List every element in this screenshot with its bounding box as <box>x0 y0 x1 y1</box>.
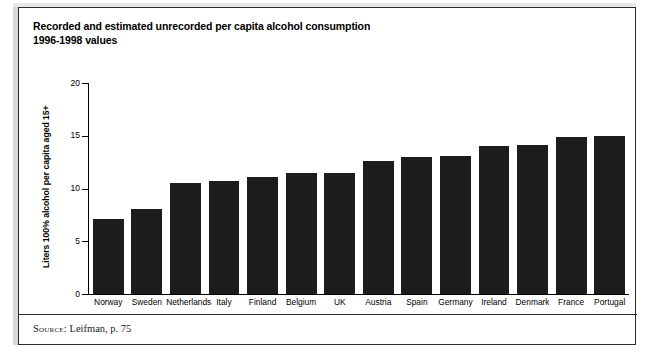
bar <box>440 156 471 294</box>
y-tick-label: 0 <box>54 290 80 299</box>
bar <box>363 161 394 294</box>
y-tick-mark <box>82 136 89 137</box>
x-axis-label: Norway <box>89 297 128 308</box>
x-axis-label: Spain <box>398 297 437 308</box>
source-citation: Leifman, p. 75 <box>70 323 132 334</box>
bar <box>247 177 278 294</box>
y-tick-label: 10 <box>54 184 80 193</box>
bar <box>286 173 317 294</box>
source-note: Source: Leifman, p. 75 <box>33 323 131 334</box>
bar <box>170 183 201 294</box>
y-tick-label-text: 20 <box>58 79 80 88</box>
y-tick-label: 5 <box>54 237 80 246</box>
bar <box>517 145 548 294</box>
y-tick-mark <box>82 294 89 295</box>
bar <box>209 181 240 294</box>
x-axis-label: Germany <box>436 297 475 308</box>
bar <box>479 146 510 294</box>
x-axis-label: Netherlands <box>166 297 205 308</box>
y-axis-title: Liters 100% alcohol per capita aged 15+ <box>41 108 51 268</box>
y-tick-mark <box>82 241 89 242</box>
x-axis-label: Portugal <box>590 297 629 308</box>
x-axis-label: Italy <box>205 297 244 308</box>
bar <box>324 173 355 294</box>
y-tick-mark <box>82 83 89 84</box>
y-tick-label: 20 <box>54 79 80 88</box>
x-axis-label: Austria <box>359 297 398 308</box>
y-tick-label-text: 10 <box>58 184 80 193</box>
bar <box>131 209 162 294</box>
y-tick-label-text: 0 <box>58 290 80 299</box>
x-axis-labels: NorwaySwedenNetherlandsItalyFinlandBelgi… <box>89 297 629 313</box>
bar <box>93 219 124 294</box>
source-label: Source: <box>33 323 67 334</box>
figure-frame: Recorded and estimated unrecorded per ca… <box>18 7 636 345</box>
y-tick-label-text: 15 <box>58 131 80 140</box>
x-axis-label: Ireland <box>475 297 514 308</box>
bar <box>556 137 587 294</box>
bar <box>401 157 432 294</box>
x-axis-label: Finland <box>243 297 282 308</box>
x-axis-label: UK <box>320 297 359 308</box>
bar <box>594 136 625 294</box>
y-tick-mark <box>82 189 89 190</box>
x-axis-label: Sweden <box>128 297 167 308</box>
plot-area: Liters 100% alcohol per capita aged 15+ … <box>19 8 637 346</box>
y-tick-label-text: 5 <box>58 237 80 246</box>
y-tick-label: 15 <box>54 131 80 140</box>
x-axis-label: Belgium <box>282 297 321 308</box>
x-axis-line <box>88 294 629 295</box>
source-divider <box>19 314 637 315</box>
x-axis-label: France <box>552 297 591 308</box>
bars-group <box>89 83 629 294</box>
x-axis-label: Denmark <box>513 297 552 308</box>
